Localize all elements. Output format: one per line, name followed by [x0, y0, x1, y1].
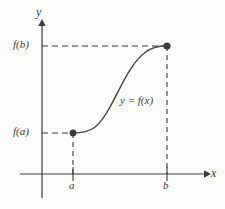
function-curve: [73, 46, 167, 133]
function-graph-figure: y x f(b) f(a) a b y = f(x): [0, 0, 225, 209]
y-axis-label: y: [36, 6, 41, 18]
x-axis-arrowhead: [204, 170, 211, 177]
x-tick-label-a: a: [69, 180, 75, 191]
endpoint-dot-a: [70, 130, 77, 137]
y-value-label-f-of-a: f(a): [13, 126, 29, 137]
curve-equation-label: y = f(x): [120, 95, 153, 106]
y-value-label-f-of-b: f(b): [13, 39, 29, 50]
endpoint-dot-b: [163, 42, 170, 49]
y-axis-arrowhead: [38, 19, 45, 26]
graph-canvas: [0, 0, 225, 209]
x-axis-label: x: [211, 167, 216, 179]
x-tick-label-b: b: [163, 180, 169, 191]
